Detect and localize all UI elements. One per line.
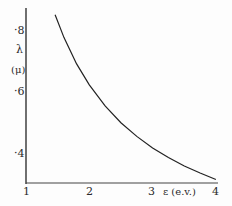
y-tick-label: ·4	[14, 148, 25, 159]
x-tick-label: 2	[86, 186, 93, 197]
x-tick-label: 3	[148, 186, 155, 197]
y-tick-label: ·8	[14, 25, 25, 36]
x-axis-label: ε (e.v.)	[163, 186, 196, 197]
y-tick-label: ·6	[14, 86, 25, 97]
plot-area	[0, 0, 232, 206]
curve-line	[55, 15, 216, 180]
chart: ·8 λ (μ) ·6 ·4 1 2 3 ε (e.v.) 4	[0, 0, 232, 206]
y-axis-label-unit: (μ)	[11, 64, 25, 75]
x-tick-label: 1	[23, 186, 30, 197]
x-tick-label: 4	[212, 186, 219, 197]
y-axis-label-symbol: λ	[16, 44, 23, 55]
